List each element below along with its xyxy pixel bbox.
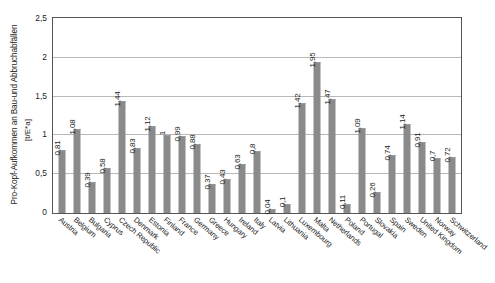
bar-value-label: 0,43 [219, 170, 227, 185]
bar-slot[interactable]: 1,12 [144, 18, 159, 213]
y-axis-tick-label: 2 [7, 53, 47, 62]
bar-slot[interactable]: 1 [159, 18, 174, 213]
bar-slot[interactable]: 1,47 [325, 18, 340, 213]
bar-slot[interactable]: 0,43 [219, 18, 234, 213]
y-axis-tick-label: 2,5 [7, 14, 47, 23]
bar-value-label: 1,12 [144, 117, 152, 132]
bar[interactable] [299, 103, 306, 213]
bar[interactable] [133, 148, 140, 213]
bar[interactable] [404, 124, 411, 213]
bar-value-label: 0,04 [264, 200, 272, 215]
x-axis-category-labels: AustriaBelgiumBulgariaCyprusCzech Republ… [54, 216, 460, 283]
bar[interactable] [449, 157, 456, 213]
bar-slot[interactable]: 1,08 [69, 18, 84, 213]
bar-value-label: 1,14 [399, 115, 407, 130]
bar-value-label: 0,11 [339, 195, 347, 209]
bar-value-label: 0,7 [429, 151, 437, 162]
bar-slot[interactable]: 1,95 [310, 18, 325, 213]
bar[interactable] [178, 136, 185, 213]
bar-value-label: 0,37 [204, 174, 212, 189]
bar-slot[interactable]: 0,99 [174, 18, 189, 213]
bar-slot[interactable]: 1,42 [295, 18, 310, 213]
bar-value-label: 0,99 [174, 127, 182, 142]
bar-value-label: 1,44 [114, 92, 122, 107]
bar-value-label: 0,81 [54, 140, 62, 155]
bar[interactable] [314, 62, 321, 213]
bar-value-label: 0,91 [414, 133, 422, 148]
bar[interactable] [419, 142, 426, 213]
bar[interactable] [103, 168, 110, 214]
y-axis-tick-label: 1,5 [7, 92, 47, 101]
bar[interactable] [329, 99, 336, 213]
bar[interactable] [253, 151, 260, 213]
bar-value-label: 0,8 [249, 143, 257, 154]
bar-series: 0,811,080,390,581,440,831,1210,990,880,3… [54, 18, 460, 213]
bar-value-label: 0,26 [369, 183, 377, 198]
bar-slot[interactable]: 0,7 [430, 18, 445, 213]
bar[interactable] [434, 158, 441, 213]
bar-value-label: 1,09 [354, 119, 362, 134]
bar-slot[interactable]: 0,39 [84, 18, 99, 213]
bar-value-label: 0,1 [279, 197, 287, 208]
bar-value-label: 0,88 [189, 135, 197, 150]
bar-slot[interactable]: 0,11 [340, 18, 355, 213]
bar-slot[interactable]: 0,1 [280, 18, 295, 213]
bar[interactable] [238, 164, 245, 213]
bar[interactable] [359, 128, 366, 213]
bar-value-label: 0,39 [84, 173, 92, 188]
bar-chart: Pro-Kopf-Aufkommen an Bau-und Abbruchabf… [0, 0, 495, 283]
bar-value-label: 1,42 [294, 94, 302, 109]
y-axis-tick-label: 1 [7, 130, 47, 139]
bar-slot[interactable]: 0,91 [415, 18, 430, 213]
bar-slot[interactable]: 0,8 [249, 18, 264, 213]
bar-value-label: 0,72 [444, 147, 452, 162]
bar-slot[interactable]: 0,83 [129, 18, 144, 213]
bar[interactable] [73, 129, 80, 213]
bar[interactable] [389, 155, 396, 213]
y-axis-title: Pro-Kopf-Aufkommen an Bau-und Abbruchabf… [8, 7, 22, 222]
bar-slot[interactable]: 0,26 [370, 18, 385, 213]
bar-value-label: 0,74 [384, 146, 392, 161]
bar-value-label: 1,47 [324, 90, 332, 105]
bar-slot[interactable]: 0,04 [265, 18, 280, 213]
bar[interactable] [148, 126, 155, 213]
bar-value-label: 0,83 [129, 139, 137, 154]
bar-slot[interactable]: 0,81 [54, 18, 69, 213]
bar-value-label: 0,58 [99, 158, 107, 173]
bar-slot[interactable]: 0,58 [99, 18, 114, 213]
bar-value-label: 1,95 [309, 53, 317, 68]
bar[interactable] [163, 135, 170, 213]
bar[interactable] [193, 144, 200, 213]
bar-slot[interactable]: 1,44 [114, 18, 129, 213]
y-axis-tick-label: 0 [7, 208, 47, 217]
bar-slot[interactable]: 0,72 [445, 18, 460, 213]
bar-value-label: 0,63 [234, 154, 242, 169]
bar-value-label: 1,08 [69, 120, 77, 135]
bar[interactable] [118, 101, 125, 213]
y-axis-tick-label: 0,5 [7, 169, 47, 178]
bar[interactable] [58, 150, 65, 213]
bar-value-label: 1 [159, 131, 167, 135]
bar-slot[interactable]: 0,63 [234, 18, 249, 213]
bar-slot[interactable]: 1,14 [400, 18, 415, 213]
